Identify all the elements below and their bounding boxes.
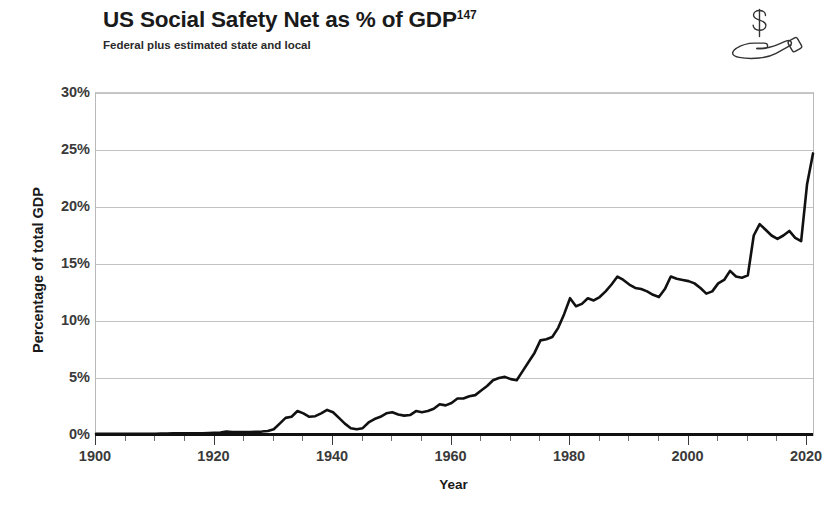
x-axis-tick-label: 2020 — [766, 448, 827, 464]
x-axis-major-tick — [569, 436, 570, 445]
x-axis-minor-tick — [184, 436, 185, 441]
x-axis-tick-label: 1960 — [411, 448, 491, 464]
x-axis-minor-tick — [302, 436, 303, 441]
x-axis-tick-label: 2000 — [648, 448, 728, 464]
x-axis-minor-tick — [421, 436, 422, 441]
x-axis-minor-tick — [717, 436, 718, 441]
data-series-line — [96, 93, 813, 435]
x-axis-tick-label: 1940 — [292, 448, 372, 464]
y-axis-tick-label: 30% — [32, 84, 90, 100]
chart-title-footnote-marker: 147 — [457, 8, 477, 22]
hand-holding-dollar-icon — [725, 4, 809, 66]
chart-figure: US Social Safety Net as % of GDP147 Fede… — [0, 0, 827, 512]
x-axis-minor-tick — [539, 436, 540, 441]
x-axis-minor-tick — [599, 436, 600, 441]
x-axis-tick-labels: 1900192019401960198020002020 — [95, 448, 812, 470]
open-hand-glyph — [733, 37, 802, 58]
x-axis-minor-tick — [747, 436, 748, 441]
y-axis-title: Percentage of total GDP — [30, 140, 46, 400]
x-axis-tick-label: 1900 — [55, 448, 135, 464]
x-axis-minor-tick — [658, 436, 659, 441]
x-axis-minor-tick — [243, 436, 244, 441]
y-axis-tick-label: 0% — [32, 426, 90, 442]
x-axis-minor-tick — [362, 436, 363, 441]
x-axis-tick-label: 1920 — [174, 448, 254, 464]
page-title: US Social Safety Net as % of GDP147 — [103, 8, 803, 33]
x-axis-major-tick — [688, 436, 689, 445]
chart-title-text: US Social Safety Net as % of GDP — [103, 7, 457, 32]
dollar-sign-glyph — [753, 10, 766, 37]
x-axis-minor-tick — [480, 436, 481, 441]
x-axis-major-tick — [214, 436, 215, 445]
chart-header: US Social Safety Net as % of GDP147 Fede… — [103, 8, 803, 51]
x-axis-major-tick — [332, 436, 333, 445]
x-axis-major-tick — [95, 436, 96, 445]
x-axis-minor-tick — [510, 436, 511, 441]
x-axis-minor-tick — [273, 436, 274, 441]
x-axis-title: Year — [95, 477, 812, 492]
x-axis-minor-tick — [776, 436, 777, 441]
plot-area — [95, 92, 814, 436]
x-axis-minor-tick — [125, 436, 126, 441]
x-axis-minor-tick — [154, 436, 155, 441]
x-axis-tick-label: 1980 — [529, 448, 609, 464]
x-axis-major-tick — [806, 436, 807, 445]
x-axis-major-tick — [451, 436, 452, 445]
x-axis-minor-tick — [628, 436, 629, 441]
x-axis-minor-tick — [391, 436, 392, 441]
footnote-text — [103, 504, 803, 512]
x-axis-ticks — [95, 436, 812, 446]
chart-subtitle: Federal plus estimated state and local — [103, 39, 803, 52]
